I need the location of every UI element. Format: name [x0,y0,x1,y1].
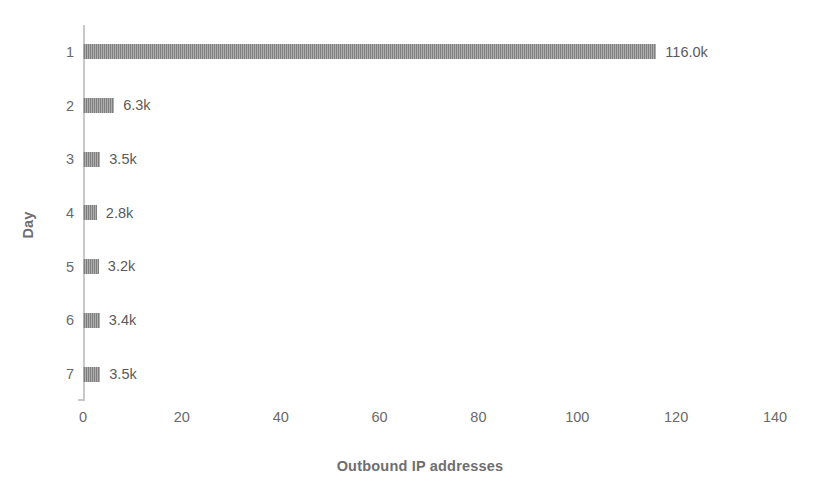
bar-value-label: 3.5k [109,152,136,167]
x-tick-label-60: 60 [371,409,387,425]
bar-day-6[interactable] [83,313,100,328]
bar-value-label: 3.4k [109,313,136,328]
x-tick-label-140: 140 [763,409,787,425]
x-axis-title-wrap: Outbound IP addresses [0,458,824,474]
bar-row: 3.2k [83,240,775,294]
bar-chart: Day 1234567 116.0k6.3k3.5k2.8k3.2k3.4k3.… [0,0,824,503]
bar-value-label: 2.8k [106,206,133,221]
bar-row: 2.8k [83,186,775,240]
y-tick-label-2: 2 [48,98,74,114]
x-axis-title: Outbound IP addresses [337,458,504,474]
bar-row: 3.4k [83,294,775,348]
y-tick-label-3: 3 [48,151,74,167]
bar-day-4[interactable] [83,205,97,220]
y-tick-label-7: 7 [48,366,74,382]
x-tick-label-120: 120 [664,409,688,425]
x-tick-label-80: 80 [470,409,486,425]
bar-row: 3.5k [83,347,775,401]
x-tick-label-0: 0 [79,409,87,425]
bar-day-1[interactable] [83,44,656,59]
y-tick-label-4: 4 [48,205,74,221]
bar-day-2[interactable] [83,98,114,113]
bar-day-3[interactable] [83,152,100,167]
plot-area: 116.0k6.3k3.5k2.8k3.2k3.4k3.5k [83,25,775,400]
y-tick-label-5: 5 [48,259,74,275]
x-tick-label-20: 20 [174,409,190,425]
bar-value-label: 6.3k [123,98,150,113]
y-tick-label-6: 6 [48,312,74,328]
x-tick-label-40: 40 [273,409,289,425]
y-axis-tick-labels: 1234567 [40,25,74,401]
bar-day-7[interactable] [83,367,100,382]
bar-value-label: 3.5k [109,367,136,382]
y-tick-label-1: 1 [48,44,74,60]
bar-row: 3.5k [83,132,775,186]
bar-day-5[interactable] [83,259,99,274]
bar-row: 116.0k [83,25,775,79]
x-tick-label-100: 100 [565,409,589,425]
x-axis-tick-labels: 020406080100120140 [83,409,775,433]
bar-row: 6.3k [83,79,775,133]
bar-value-label: 3.2k [108,259,135,274]
bar-value-label: 116.0k [665,45,707,60]
